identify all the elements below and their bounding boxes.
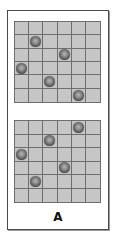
grid-cell xyxy=(86,121,100,135)
grid-cell xyxy=(72,22,86,35)
grid-cell xyxy=(15,135,29,149)
grid-cell xyxy=(86,162,100,176)
grid-cell xyxy=(58,35,72,48)
ball-icon xyxy=(73,122,84,133)
grid-cell xyxy=(15,89,29,102)
grid-cell xyxy=(86,49,100,62)
grid-cell xyxy=(29,62,43,75)
grid-cell xyxy=(15,22,29,35)
grid-cell xyxy=(58,148,72,162)
grid-cell xyxy=(29,49,43,62)
grid-cell xyxy=(29,121,43,135)
top-grid-panel xyxy=(14,21,101,103)
grid-cell xyxy=(58,89,72,102)
ball-icon xyxy=(59,162,70,173)
grid-cell xyxy=(72,121,86,135)
grid-cell xyxy=(43,75,57,88)
grid-cell xyxy=(58,75,72,88)
grid-cell xyxy=(58,62,72,75)
grid-cell xyxy=(72,162,86,176)
grid-cell xyxy=(15,162,29,176)
grid-cell xyxy=(15,148,29,162)
grid-cell xyxy=(86,175,100,189)
grid-cell xyxy=(58,162,72,176)
grid-cell xyxy=(86,148,100,162)
grid-cell xyxy=(86,89,100,102)
grid-cell xyxy=(29,148,43,162)
grid-cell xyxy=(29,162,43,176)
grid-cell xyxy=(72,89,86,102)
grid-cell xyxy=(29,175,43,189)
grid-cell xyxy=(58,121,72,135)
grid-cell xyxy=(29,75,43,88)
grid-cell xyxy=(29,135,43,149)
ball-icon xyxy=(16,63,27,74)
ball-icon xyxy=(44,76,55,87)
grid-cell xyxy=(15,62,29,75)
grid-cell xyxy=(58,135,72,149)
grid-cell xyxy=(29,35,43,48)
grid-cell xyxy=(86,62,100,75)
grid-cell xyxy=(43,35,57,48)
grid-cell xyxy=(72,35,86,48)
ball-icon xyxy=(16,149,27,160)
grid-cell xyxy=(86,135,100,149)
grid-cell xyxy=(43,89,57,102)
grid-cell xyxy=(72,189,86,203)
grid-cell xyxy=(58,22,72,35)
grid-cell xyxy=(43,121,57,135)
option-label: A xyxy=(7,210,109,224)
ball-icon xyxy=(59,49,70,60)
grid-cell xyxy=(43,62,57,75)
grid-cell xyxy=(15,175,29,189)
grid-cell xyxy=(29,22,43,35)
grid-cell xyxy=(43,135,57,149)
grid-cell xyxy=(15,35,29,48)
grid-cell xyxy=(43,49,57,62)
grid-cell xyxy=(86,189,100,203)
ball-icon xyxy=(30,176,41,187)
grid-cell xyxy=(15,75,29,88)
grid-cell xyxy=(86,35,100,48)
grid-cell xyxy=(29,189,43,203)
grid-cell xyxy=(43,162,57,176)
grid-cell xyxy=(72,75,86,88)
grid-cell xyxy=(72,62,86,75)
grid-cell xyxy=(43,22,57,35)
grid-cell xyxy=(58,49,72,62)
grid-cell xyxy=(15,121,29,135)
grid-cell xyxy=(58,175,72,189)
grid-cell xyxy=(58,189,72,203)
grid-cell xyxy=(15,49,29,62)
grid-cell xyxy=(72,49,86,62)
grid-cell xyxy=(43,189,57,203)
grid-cell xyxy=(43,148,57,162)
bottom-grid-panel xyxy=(14,120,101,203)
ball-icon xyxy=(30,36,41,47)
grid-cell xyxy=(29,89,43,102)
grid-cell xyxy=(15,189,29,203)
grid-cell xyxy=(72,135,86,149)
grid-cell xyxy=(72,175,86,189)
grid-cell xyxy=(86,22,100,35)
grid-cell xyxy=(43,175,57,189)
grid-cell xyxy=(72,148,86,162)
ball-icon xyxy=(73,90,84,101)
grid-cell xyxy=(86,75,100,88)
ball-icon xyxy=(44,135,55,146)
